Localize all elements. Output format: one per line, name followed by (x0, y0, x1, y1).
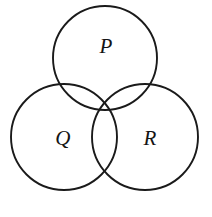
diagram-background (0, 0, 212, 217)
set-label-q: Q (55, 126, 70, 150)
venn-diagram-figure: P Q R (0, 0, 212, 217)
set-label-r: R (142, 126, 156, 150)
set-label-p: P (98, 34, 112, 58)
venn-diagram-canvas: P Q R (0, 0, 212, 217)
